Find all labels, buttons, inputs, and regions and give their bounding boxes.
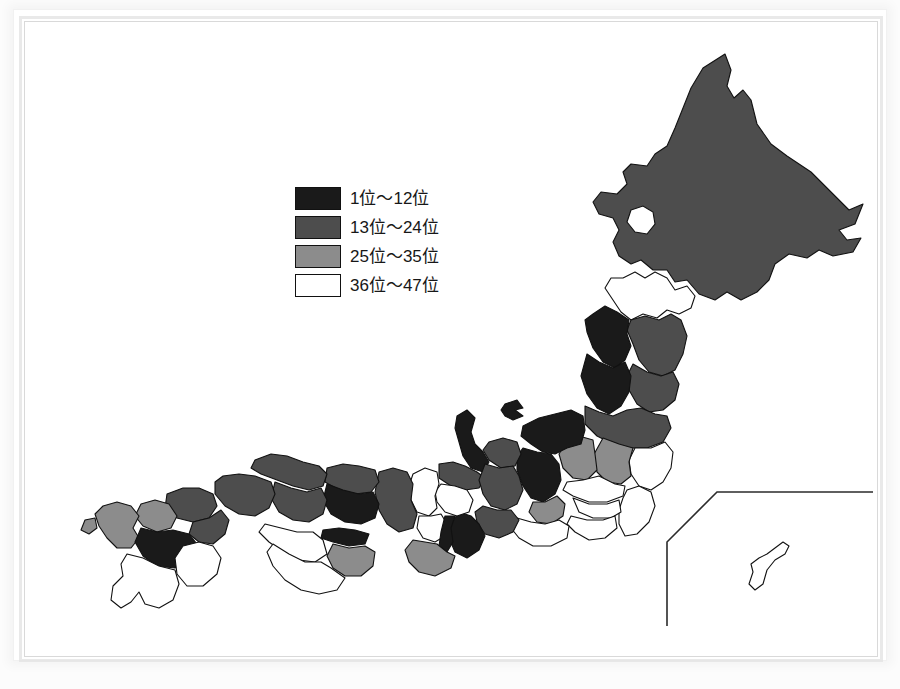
legend-label-rank-1-12: 1位〜12位 [350,190,429,207]
legend-swatch-rank-25-35 [295,245,341,268]
legend-swatch-rank-1-12 [295,187,341,210]
japan-choropleth-svg [27,24,873,652]
prefecture-yamaguchi[interactable] [215,474,275,516]
legend-label-rank-13-24: 13位〜24位 [350,219,439,236]
prefecture-kanagawa[interactable] [567,516,617,540]
prefecture-nagasaki-islands[interactable] [81,518,97,534]
figure-page: 1位〜12位 13位〜24位 25位〜35位 36位〜47位 [0,0,900,689]
legend-item-rank-1-12[interactable]: 1位〜12位 [295,186,470,211]
prefecture-ishikawa[interactable] [455,410,489,472]
prefecture-sado-island[interactable] [501,400,523,420]
prefecture-ibaraki[interactable] [629,442,673,490]
legend-item-rank-36-47[interactable]: 36位〜47位 [295,273,470,298]
prefecture-miyazaki[interactable] [175,542,221,586]
prefecture-hyogo[interactable] [375,468,417,532]
legend-label-rank-36-47: 36位〜47位 [350,277,439,294]
legend: 1位〜12位 13位〜24位 25位〜35位 36位〜47位 [295,186,470,302]
prefecture-fukushima[interactable] [585,406,671,448]
prefecture-gifu[interactable] [479,464,523,510]
legend-item-rank-25-35[interactable]: 25位〜35位 [295,244,470,269]
legend-swatch-rank-36-47 [295,274,341,297]
legend-item-rank-13-24[interactable]: 13位〜24位 [295,215,470,240]
map-figure: 1位〜12位 13位〜24位 25位〜35位 36位〜47位 [27,24,873,652]
prefecture-chiba[interactable] [619,486,655,536]
prefecture-kagawa[interactable] [321,528,369,546]
prefecture-nagano[interactable] [517,448,561,502]
legend-label-rank-25-35: 25位〜35位 [350,248,439,265]
legend-swatch-rank-13-24 [295,216,341,239]
prefecture-hokkaido[interactable] [593,54,863,300]
prefecture-nagasaki[interactable] [95,502,139,548]
prefecture-okinawa[interactable] [749,542,789,590]
